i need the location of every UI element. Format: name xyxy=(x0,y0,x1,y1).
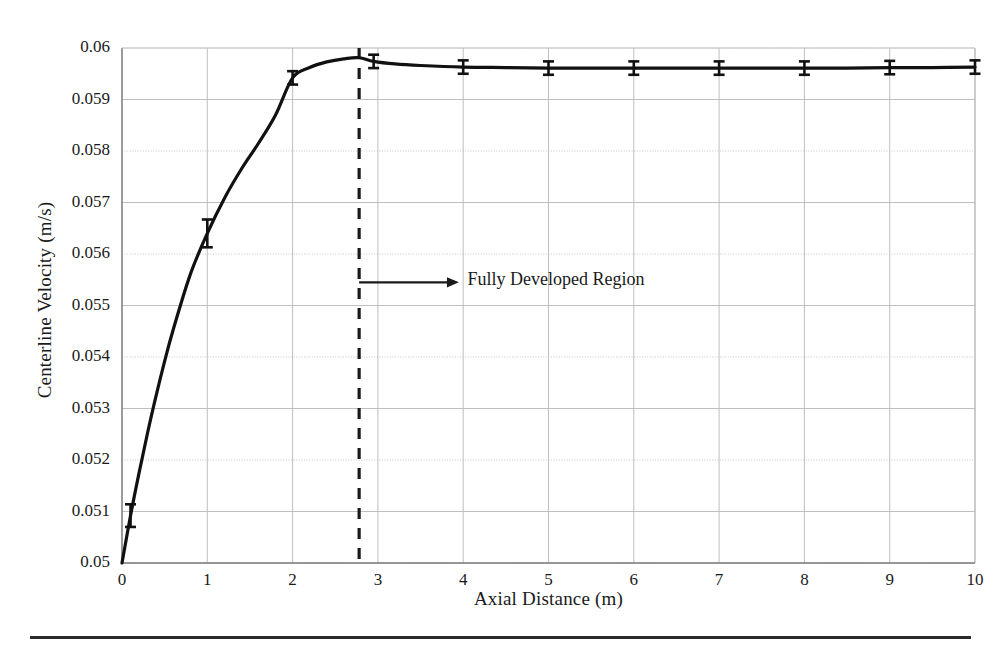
x-tick-label: 5 xyxy=(519,570,579,590)
y-tick-label: 0.05 xyxy=(0,552,110,572)
x-axis-title: Axial Distance (m) xyxy=(122,588,975,610)
y-tick-label: 0.059 xyxy=(0,89,110,109)
figure-container: Centerline Velocity (m/s) Axial Distance… xyxy=(0,0,1005,650)
y-tick-label: 0.052 xyxy=(0,449,110,469)
x-tick-label: 10 xyxy=(945,570,1005,590)
x-tick-label: 7 xyxy=(689,570,749,590)
x-tick-label: 0 xyxy=(92,570,152,590)
y-tick-label: 0.054 xyxy=(0,346,110,366)
fully-developed-region-label: Fully Developed Region xyxy=(467,269,644,290)
y-tick-label: 0.06 xyxy=(0,37,110,57)
y-tick-label: 0.056 xyxy=(0,243,110,263)
y-tick-label: 0.053 xyxy=(0,398,110,418)
y-tick-label: 0.057 xyxy=(0,192,110,212)
x-tick-label: 6 xyxy=(604,570,664,590)
y-tick-label: 0.058 xyxy=(0,140,110,160)
x-tick-label: 1 xyxy=(177,570,237,590)
x-tick-label: 8 xyxy=(774,570,834,590)
x-tick-label: 3 xyxy=(348,570,408,590)
y-tick-label: 0.055 xyxy=(0,295,110,315)
centerline-velocity-chart xyxy=(0,0,1005,650)
figure-bottom-rule xyxy=(30,636,971,639)
x-tick-label: 4 xyxy=(433,570,493,590)
x-tick-label: 2 xyxy=(263,570,323,590)
x-tick-label: 9 xyxy=(860,570,920,590)
y-tick-label: 0.051 xyxy=(0,501,110,521)
